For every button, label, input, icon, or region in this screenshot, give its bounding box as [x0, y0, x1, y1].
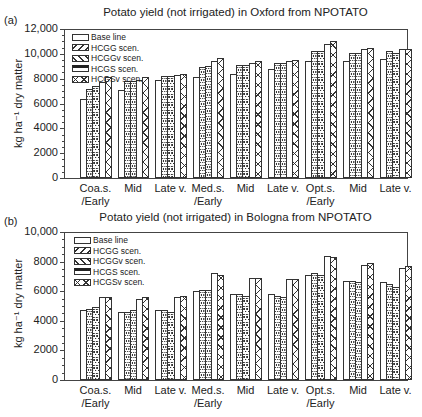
legend-item-hcgg: HCGG scen. — [72, 43, 143, 54]
bar-hcgsv — [255, 278, 262, 380]
bar-hcgsv — [142, 77, 149, 178]
legend-label: HCGSv scen. — [93, 277, 145, 288]
y-tick-label: 0 — [8, 171, 58, 183]
y-minor-tick — [62, 128, 64, 129]
y-tick-label: 10,000 — [8, 47, 58, 59]
chart-title: Potato yield (not irrigated) in Bologna … — [64, 211, 407, 223]
y-tick-label: 0 — [8, 373, 58, 385]
y-tick-label: 4000 — [8, 121, 58, 133]
y-tick-label: 6000 — [8, 284, 58, 296]
y-minor-tick — [62, 291, 64, 292]
legend-label: Base line — [93, 235, 128, 246]
y-minor-tick — [62, 358, 64, 359]
y-tick-label: 6000 — [8, 97, 58, 109]
y-minor-tick — [62, 35, 64, 36]
legend-item-hcggv: HCGGv scen. — [74, 256, 145, 267]
y-tick-label: 12,000 — [8, 22, 58, 34]
legend-swatch — [72, 65, 89, 72]
y-minor-tick — [62, 269, 64, 270]
legend-item-base: Base line — [72, 32, 143, 43]
legend-swatch — [74, 279, 91, 286]
y-minor-tick — [62, 72, 64, 73]
bar-hcgsv — [330, 257, 337, 380]
bar-hcgsv — [367, 263, 374, 380]
legend-label: HCGS scen. — [91, 64, 138, 75]
legend: Base lineHCGG scen.HCGGv scen.HCGS scen.… — [72, 32, 143, 85]
y-tick-label: 2000 — [8, 146, 58, 158]
y-minor-tick — [62, 135, 64, 136]
y-minor-tick — [62, 239, 64, 240]
legend-label: Base line — [91, 32, 126, 43]
y-minor-tick — [62, 116, 64, 117]
y-minor-tick — [62, 373, 64, 374]
y-minor-tick — [62, 97, 64, 98]
y-minor-tick — [62, 178, 64, 179]
y-minor-tick — [62, 336, 64, 337]
legend-label: HCGSv scen. — [91, 74, 143, 85]
y-minor-tick — [62, 66, 64, 67]
legend-item-hcgs: HCGS scen. — [72, 64, 143, 75]
legend-item-hcggv: HCGGv scen. — [72, 53, 143, 64]
legend-swatch — [72, 76, 89, 83]
legend-item-hcgsv: HCGSv scen. — [72, 74, 143, 85]
y-minor-tick — [62, 172, 64, 173]
bar-hcgsv — [405, 266, 412, 380]
y-minor-tick — [62, 147, 64, 148]
legend-label: HCGGv scen. — [93, 256, 145, 267]
bar-hcgsv — [292, 60, 299, 178]
y-tick-label: 8000 — [8, 255, 58, 267]
y-minor-tick — [62, 343, 64, 344]
legend-swatch — [72, 34, 89, 41]
legend-swatch — [72, 55, 89, 62]
y-minor-tick — [62, 299, 64, 300]
y-minor-tick — [62, 328, 64, 329]
y-minor-tick — [62, 306, 64, 307]
y-minor-tick — [62, 254, 64, 255]
y-minor-tick — [62, 85, 64, 86]
legend-swatch — [74, 258, 91, 265]
bar-hcgsv — [105, 77, 112, 178]
y-minor-tick — [62, 276, 64, 277]
legend-item-hcgsv: HCGSv scen. — [74, 277, 145, 288]
y-minor-tick — [62, 79, 64, 80]
y-minor-tick — [62, 104, 64, 105]
y-minor-tick — [62, 60, 64, 61]
y-minor-tick — [62, 91, 64, 92]
legend-item-base: Base line — [74, 235, 145, 246]
legend: Base lineHCGG scen.HCGGv scen.HCGS scen.… — [74, 235, 145, 288]
y-tick-label: 10,000 — [8, 225, 58, 237]
legend-swatch — [72, 44, 89, 51]
y-minor-tick — [62, 262, 64, 263]
y-minor-tick — [62, 122, 64, 123]
bar-hcgsv — [255, 61, 262, 178]
y-minor-tick — [62, 41, 64, 42]
y-minor-tick — [62, 29, 64, 30]
legend-swatch — [74, 268, 91, 275]
y-minor-tick — [62, 321, 64, 322]
bar-hcgsv — [180, 74, 187, 178]
bar-hcgsv — [330, 41, 337, 178]
legend-label: HCGG scen. — [93, 246, 141, 257]
bar-hcgsv — [217, 58, 224, 178]
legend-item-hcgs: HCGS scen. — [74, 267, 145, 278]
y-minor-tick — [62, 159, 64, 160]
y-minor-tick — [62, 313, 64, 314]
y-minor-tick — [62, 232, 64, 233]
y-tick-label: 8000 — [8, 72, 58, 84]
bar-hcgsv — [292, 279, 299, 380]
legend-label: HCGS scen. — [93, 267, 140, 278]
y-tick-label: 2000 — [8, 343, 58, 355]
y-minor-tick — [62, 247, 64, 248]
legend-item-hcgg: HCGG scen. — [74, 246, 145, 257]
bar-hcgsv — [367, 48, 374, 178]
y-minor-tick — [62, 141, 64, 142]
bar-hcgsv — [180, 296, 187, 380]
bar-hcgsv — [105, 297, 112, 380]
chart-panel-bologna: (b) Potato yield (not irrigated) in Bolo… — [0, 208, 422, 417]
x-tick-label: Late v. — [374, 182, 418, 195]
legend-label: HCGGv scen. — [91, 53, 143, 64]
y-minor-tick — [62, 365, 64, 366]
legend-swatch — [74, 237, 91, 244]
legend-label: HCGG scen. — [91, 43, 139, 54]
chart-panel-oxford: (a) Potato yield (not irrigated) in Oxfo… — [0, 0, 422, 208]
